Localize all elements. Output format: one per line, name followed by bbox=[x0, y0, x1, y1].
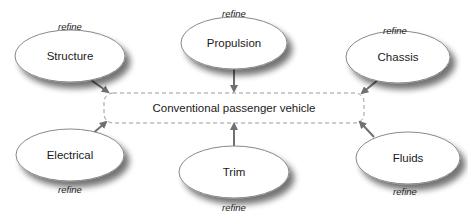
node-chassis[interactable]: Chassisrefine bbox=[346, 25, 450, 93]
refine-arrow-fluids bbox=[360, 122, 374, 137]
refine-label-structure: refine bbox=[58, 21, 82, 32]
node-label-trim: Trim bbox=[223, 166, 246, 178]
node-trim[interactable]: Trimrefine bbox=[179, 124, 289, 213]
node-label-structure: Structure bbox=[47, 50, 94, 62]
node-electrical[interactable]: Electricalrefine bbox=[16, 122, 124, 195]
refine-label-trim: refine bbox=[222, 202, 246, 213]
center-node-label: Conventional passenger vehicle bbox=[152, 102, 315, 114]
node-label-electrical: Electrical bbox=[47, 149, 94, 161]
node-fluids[interactable]: Fluidsrefine bbox=[356, 122, 460, 197]
node-label-chassis: Chassis bbox=[378, 51, 419, 63]
center-node-conventional-passenger-vehicle[interactable]: Conventional passenger vehicle bbox=[104, 93, 364, 123]
refine-label-electrical: refine bbox=[58, 184, 82, 195]
refine-label-propulsion: refine bbox=[222, 8, 246, 19]
refine-label-chassis: refine bbox=[383, 25, 407, 36]
node-propulsion[interactable]: Propulsionrefine bbox=[181, 8, 287, 91]
node-structure[interactable]: Structurerefine bbox=[15, 21, 125, 92]
refine-label-fluids: refine bbox=[393, 186, 417, 197]
diagram-canvas: Conventional passenger vehicle Structure… bbox=[0, 0, 468, 221]
refine-arrow-chassis bbox=[362, 80, 378, 93]
node-label-fluids: Fluids bbox=[393, 152, 424, 164]
node-label-propulsion: Propulsion bbox=[207, 37, 261, 49]
